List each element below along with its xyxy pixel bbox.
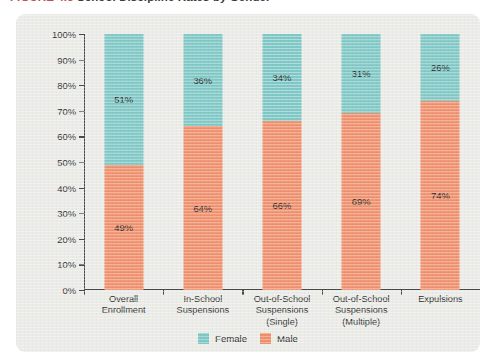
bar-slot: 36%64% [163, 34, 242, 290]
x-axis-category-line: (Multiple) [322, 317, 401, 328]
x-axis-category-line: Expulsions [401, 294, 480, 305]
figure-number: FIGURE 4.5 [10, 0, 74, 3]
y-axis-tick-label: 0% [62, 285, 76, 296]
stacked-bar[interactable]: 34%66% [263, 34, 302, 290]
bar-slot: 51%49% [84, 34, 163, 290]
bar-value-label: 49% [114, 222, 133, 233]
y-axis-tick-label: 30% [57, 208, 76, 219]
bar-value-label: 51% [114, 94, 133, 105]
y-axis-tick-label: 10% [57, 259, 76, 270]
y-axis-tick-label: 50% [57, 157, 76, 168]
y-axis-tick-label: 100% [52, 29, 76, 40]
bar-segment-male: 74% [421, 101, 460, 290]
x-axis-category-line: Suspensions [163, 305, 242, 316]
figure-title: School Discipline Rates by Gender [77, 0, 271, 3]
chart-panel: 0%10%20%30%40%50%60%70%80%90%100% 51%49%… [16, 14, 480, 352]
x-axis-category-line: Out-of-School [322, 294, 401, 305]
bar-slot: 26%74% [401, 34, 480, 290]
stacked-bar[interactable]: 31%69% [342, 34, 381, 290]
x-axis-labels: OverallEnrollmentIn-SchoolSuspensionsOut… [84, 294, 480, 328]
bar-segment-female: 31% [342, 34, 381, 113]
bar-value-label: 31% [352, 68, 371, 79]
bar-slot: 31%69% [322, 34, 401, 290]
bar-value-label: 36% [193, 75, 212, 86]
bar-group: 51%49%36%64%34%66%31%69%26%74% [84, 34, 480, 290]
chart-legend: Female Male [16, 333, 480, 344]
bar-slot: 34%66% [242, 34, 321, 290]
x-axis-category-label: Out-of-SchoolSuspensions(Single) [242, 294, 321, 328]
x-axis-category-label: Out-of-SchoolSuspensions(Multiple) [322, 294, 401, 328]
x-axis-category-line: Out-of-School [242, 294, 321, 305]
x-axis-category-label: OverallEnrollment [84, 294, 163, 328]
bar-segment-female: 26% [421, 34, 460, 101]
stacked-bar[interactable]: 36%64% [183, 34, 222, 290]
x-axis-category-label: In-SchoolSuspensions [163, 294, 242, 328]
bar-segment-female: 34% [263, 34, 302, 121]
y-axis-tick-label: 70% [57, 105, 76, 116]
legend-label-female: Female [215, 333, 247, 344]
plot-area: 0%10%20%30%40%50%60%70%80%90%100% 51%49%… [84, 34, 480, 290]
x-axis-category-line: (Single) [242, 317, 321, 328]
bar-segment-male: 49% [104, 165, 143, 290]
legend-item-female[interactable]: Female [198, 333, 247, 344]
y-axis-tick-label: 60% [57, 131, 76, 142]
bar-segment-male: 66% [263, 121, 302, 290]
x-axis-category-label: Expulsions [401, 294, 480, 328]
x-axis-category-line: Suspensions [322, 305, 401, 316]
legend-swatch-female [198, 333, 209, 344]
bar-value-label: 34% [273, 72, 292, 83]
y-axis-tick-label: 40% [57, 182, 76, 193]
bar-value-label: 26% [431, 62, 450, 73]
bar-value-label: 74% [431, 190, 450, 201]
x-axis-category-line: Suspensions [242, 305, 321, 316]
y-axis-tick-label: 20% [57, 233, 76, 244]
stacked-bar[interactable]: 26%74% [421, 34, 460, 290]
figure-caption: FIGURE 4.5 School Discipline Rates by Ge… [10, 0, 271, 3]
y-axis-tick-label: 90% [57, 54, 76, 65]
bar-segment-male: 69% [342, 113, 381, 290]
x-axis-category-line: Enrollment [84, 305, 163, 316]
x-axis-category-line: In-School [163, 294, 242, 305]
legend-label-male: Male [277, 333, 298, 344]
bar-segment-female: 36% [183, 34, 222, 126]
bar-value-label: 66% [273, 200, 292, 211]
y-axis-tick-label: 80% [57, 80, 76, 91]
legend-swatch-male [260, 333, 271, 344]
stacked-bar[interactable]: 51%49% [104, 34, 143, 290]
bar-segment-female: 51% [104, 34, 143, 165]
legend-item-male[interactable]: Male [260, 333, 298, 344]
bar-segment-male: 64% [183, 126, 222, 290]
bar-value-label: 64% [193, 203, 212, 214]
bar-value-label: 69% [352, 196, 371, 207]
x-axis-category-line: Overall [84, 294, 163, 305]
